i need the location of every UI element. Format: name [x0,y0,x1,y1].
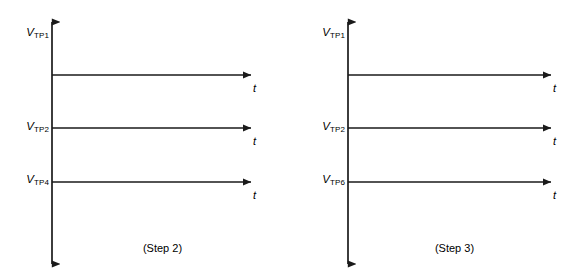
trace-label-subscript: TP4 [34,178,49,187]
trace-label-vtp2: VTP2 [322,121,345,134]
trace-label-symbol: V [322,173,330,185]
time-axis-label-2: t [253,136,256,147]
time-axis-label-3: t [253,190,256,201]
trace-label-symbol: V [26,173,34,185]
trace-label-symbol: V [26,26,34,38]
trace-label-vtp6: VTP6 [322,174,345,187]
waveform-panel-step-3: VTP1 VTP2 VTP6 t t t (Step 3) [289,0,578,280]
panel-caption-step-3: (Step 3) [289,242,578,254]
trace-label-symbol: V [322,26,330,38]
trace-label-subscript: TP1 [330,31,345,40]
waveform-plot-step-3 [289,0,578,280]
trace-label-subscript: TP2 [34,125,49,134]
trace-label-vtp2: VTP2 [26,121,49,134]
waveform-panel-step-2: VTP1 VTP2 VTP4 t t t (Step 2) [0,0,289,280]
time-axis-label-2: t [553,136,556,147]
trace-label-vtp1: VTP1 [26,27,49,40]
trace-label-vtp4: VTP4 [26,174,49,187]
trace-label-subscript: TP1 [34,31,49,40]
trace-label-subscript: TP6 [330,178,345,187]
panel-caption-step-2: (Step 2) [0,242,289,254]
trace-label-symbol: V [26,120,34,132]
time-axis-label-3: t [553,190,556,201]
trace-label-subscript: TP2 [330,125,345,134]
waveform-figure: VTP1 VTP2 VTP4 t t t (Step 2) [0,0,578,280]
time-axis-label-1: t [553,83,556,94]
trace-label-vtp1: VTP1 [322,27,345,40]
trace-label-symbol: V [322,120,330,132]
time-axis-label-1: t [253,83,256,94]
waveform-plot-step-2 [0,0,289,280]
